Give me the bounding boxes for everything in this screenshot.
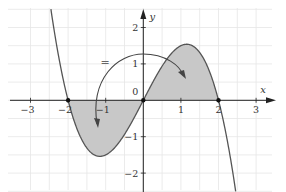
y-axis-label: y bbox=[148, 11, 155, 22]
x-axis-arrow-icon bbox=[266, 97, 276, 103]
y-tick-label: 2 bbox=[132, 22, 138, 33]
zero-point bbox=[66, 98, 70, 102]
zero-point bbox=[141, 98, 145, 102]
x-tick-label: −1 bbox=[96, 104, 110, 115]
x-tick-label: −3 bbox=[20, 104, 34, 115]
y-tick-label: 1 bbox=[132, 58, 138, 69]
y-axis-arrow-icon bbox=[140, 9, 146, 19]
origin-label: 0 bbox=[132, 86, 138, 97]
x-tick-label: 2 bbox=[215, 104, 221, 115]
x-tick-label: 1 bbox=[178, 104, 184, 115]
x-tick-label: −2 bbox=[58, 104, 72, 115]
x-axis-label: x bbox=[260, 84, 266, 95]
zero-point bbox=[216, 98, 220, 102]
equals-sign: = bbox=[100, 56, 109, 69]
cubic-function-graph: −3−2−1123−2−1120xy = bbox=[0, 0, 286, 192]
y-tick-label: −2 bbox=[124, 168, 138, 179]
x-tick-label: 3 bbox=[253, 104, 259, 115]
grid bbox=[8, 8, 272, 191]
y-tick-label: −1 bbox=[124, 131, 138, 142]
